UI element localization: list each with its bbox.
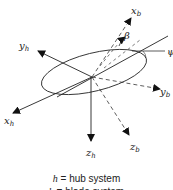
z-b-label: zb (129, 141, 140, 154)
x-b-axis-arrow (92, 18, 131, 77)
psi-label: ψ (167, 46, 173, 57)
legend-blade-text: = blade system (54, 186, 124, 190)
y-b-label: yb (159, 86, 171, 99)
z-b-axis-arrow (92, 77, 129, 135)
blade-axis-line (57, 36, 168, 97)
legend-blade: b = blade system (0, 186, 173, 190)
y-b-axis-arrow (92, 77, 160, 89)
coordinate-diagram: yh xh zh xb yb zb β ψ h = hub system b =… (0, 0, 173, 190)
diagram-canvas: yh xh zh xb yb zb β ψ (0, 0, 173, 190)
x-h-axis-arrow (13, 77, 92, 113)
legend-hub: h = hub system (0, 173, 173, 184)
y-h-label: yh (18, 40, 29, 53)
legend-hub-text: = hub system (58, 173, 121, 184)
x-b-label: xb (131, 5, 142, 18)
x-h-label: xh (4, 115, 14, 128)
blade-dash-hint (100, 44, 118, 66)
z-h-label: zh (85, 147, 96, 160)
beta-label: β (123, 30, 130, 41)
